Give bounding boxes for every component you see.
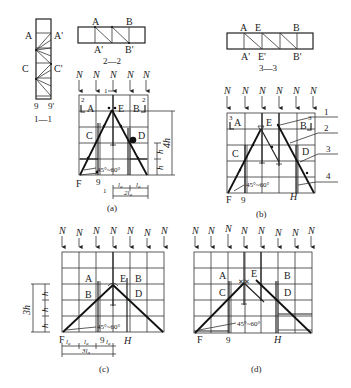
label-d: D [302,146,309,157]
load-n: N [207,225,216,236]
label-9: 9 [96,177,101,187]
label-b: B [293,22,300,33]
section-mark-1: 1 [103,187,107,195]
dim-3la: 3la [81,347,90,355]
label-c-prime: C' [54,63,63,74]
label-f: F [226,194,232,205]
load-n: N [292,85,301,96]
section-mark-2: 2 [81,96,85,104]
load-n: N [307,225,316,236]
load-arrows: N N N N N N N [58,225,169,247]
load-arrows: N N N N N N N N [191,223,316,247]
label-f: F [76,178,82,189]
load-n: N [160,225,169,236]
panel-caption: (c) [99,364,109,374]
label-9: 9 [241,195,246,205]
load-n: N [143,227,152,238]
angle-label: 45°~60° [97,323,121,331]
label-d: D [284,287,291,298]
section-caption: 2—2 [103,56,121,66]
panel-b: N N N N N N [223,85,338,219]
panel-caption: (d) [251,364,262,374]
panel-a: N N N N N [75,69,175,213]
label-9: 9 [226,335,231,345]
label-e: E [266,117,272,128]
dim-la: la [66,338,71,346]
section-2-2: A B A' B' 2—2 [78,16,145,66]
label-c: C [22,63,29,74]
dim-2la: 2la [124,189,132,197]
dim-3h: 3h [21,305,32,316]
label-b: B [300,120,307,131]
callout-4: 4 [326,171,331,181]
label-h: H [273,334,282,345]
load-n: N [75,69,84,80]
callout-1: 1 [324,107,329,117]
load-n: N [257,225,266,236]
load-n: N [109,225,118,236]
load-n: N [274,227,283,238]
load-n: N [58,225,67,236]
bracing-diagram: A A' C C' 9 9' 1—1 A B A' B' 2—2 A E B [0,0,351,388]
label-9: 9 [34,101,39,111]
section-mark-3: 3 [229,114,233,122]
load-n: N [191,225,200,236]
dim-h: h [40,323,50,328]
panel-c: N N N N N N N 45°~60° A E B [21,225,169,374]
load-n: N [142,69,151,80]
dim-la: la [136,181,141,189]
label-d: D [138,130,145,141]
dim-h: h [155,149,165,154]
load-n: N [291,227,300,238]
angle-label: 45°~60° [246,181,270,189]
angle-label: 45°~60° [237,320,261,328]
load-n: N [309,85,318,96]
label-9-prime: 9' [48,101,55,111]
label-b: B [135,273,142,284]
dim-h: h [40,307,50,312]
load-n: N [92,225,101,236]
label-b: B [85,289,92,300]
label-a: A [85,273,93,284]
label-a: A [25,30,33,41]
section-1-1: A A' C C' 9 9' 1—1 [22,19,63,124]
label-c: C [219,287,226,298]
section-mark-1: 1 [104,87,108,95]
load-n: N [126,225,135,236]
dim-la: la [84,338,89,346]
label-a-prime: A' [54,30,63,41]
load-n: N [258,85,267,96]
panel-caption: (a) [107,203,117,213]
label-e: E [118,103,124,114]
label-a: A [240,22,248,33]
label-e-prime: E' [258,51,266,62]
label-a-prime: A' [94,44,103,55]
section-caption: 1—1 [34,114,52,124]
label-a: A [219,270,227,281]
load-n: N [275,85,284,96]
callout-2: 2 [324,123,329,133]
load-n: N [224,223,233,234]
load-n: N [240,225,249,236]
label-a-prime: A' [241,51,250,62]
label-b: B [284,270,291,281]
label-a: A [87,103,95,114]
label-f: F [197,334,203,345]
label-e: E [120,273,126,284]
dim-h: h [155,165,165,170]
label-b: B [126,16,133,27]
label-c: C [86,130,93,141]
load-n: N [75,227,84,238]
dim-4h: 4h [161,138,172,148]
panel-caption: (b) [256,209,267,219]
section-caption: 3—3 [259,63,278,73]
label-h: H [289,191,298,202]
dim-la: la [118,181,123,189]
callout-3: 3 [326,144,331,154]
label-b-prime: B' [125,44,134,55]
load-n: N [109,69,118,80]
load-n: N [223,85,232,96]
coupler-icon: ✕✕ [238,278,250,286]
panel-d: N N N N N N N N [191,223,316,374]
label-a: A [92,16,100,27]
